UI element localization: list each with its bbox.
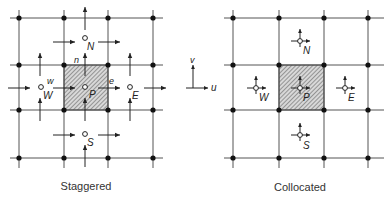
axis-label-u: u bbox=[211, 82, 217, 93]
caption-staggered: Staggered bbox=[61, 180, 112, 192]
node-label-p: P bbox=[303, 92, 310, 103]
node-label-s: S bbox=[87, 137, 94, 148]
node-label-n: N bbox=[303, 45, 311, 56]
node-label-n: N bbox=[87, 41, 95, 52]
axis-indicator: v u bbox=[186, 55, 217, 93]
node-label-e: E bbox=[348, 92, 355, 103]
node-label-p: P bbox=[89, 89, 96, 100]
pressure-nodes bbox=[39, 36, 133, 137]
staggered-grid: P W E N S n w e Staggered bbox=[8, 7, 166, 192]
node-label-w: W bbox=[259, 92, 270, 103]
axis-label-v: v bbox=[190, 55, 195, 65]
collocated-nodes bbox=[254, 39, 348, 138]
grid-diagrams: P W E N S n w e Staggered v u bbox=[0, 0, 384, 198]
face-label-w: w bbox=[47, 76, 54, 86]
face-label-e: e bbox=[109, 76, 114, 86]
node-label-w: W bbox=[43, 90, 54, 101]
node-label-e: E bbox=[132, 90, 139, 101]
face-label-n: n bbox=[74, 55, 79, 65]
node-label-s: S bbox=[303, 140, 310, 151]
collocated-grid: N W P E S Collocated bbox=[224, 10, 384, 193]
caption-collocated: Collocated bbox=[274, 181, 326, 193]
